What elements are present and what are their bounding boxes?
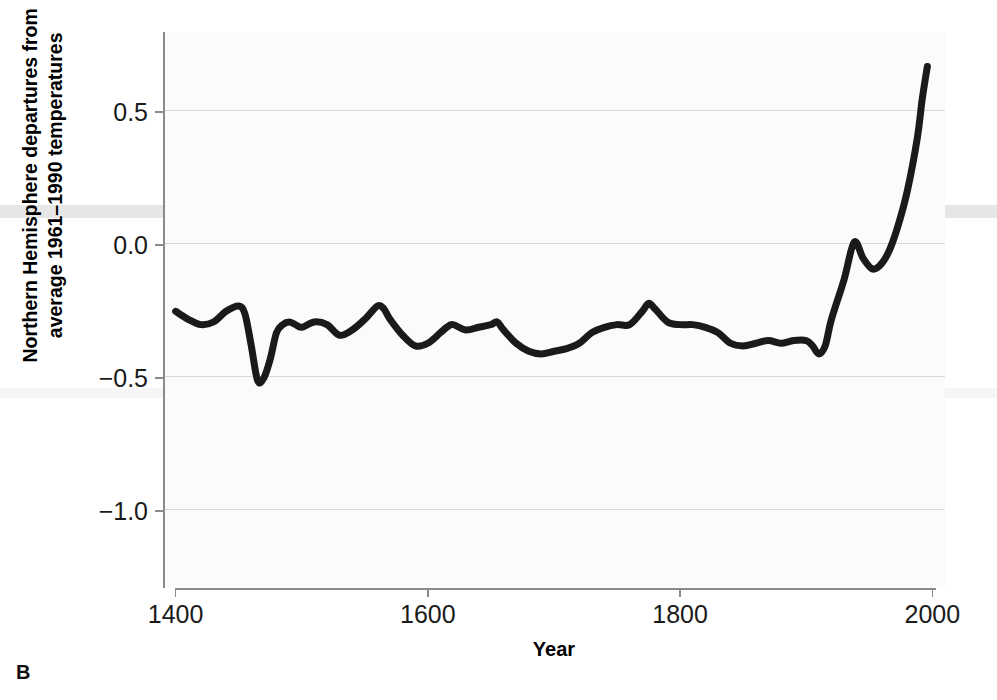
y-tick-−1.0 [155,510,164,512]
x-tick-label-1600: 1600 [400,600,456,629]
x-axis-title: Year [163,638,945,661]
x-tick-label-1800: 1800 [652,600,708,629]
y-axis-line [163,32,165,588]
y-tick-label-−1.0: −1.0 [99,496,148,525]
x-tick-label-1400: 1400 [148,600,204,629]
y-axis-title: Northern Hemisphere departures from aver… [18,0,69,395]
plot-area [163,32,945,588]
panel-label: B [16,661,30,684]
y-axis-title-line1: Northern Hemisphere departures from [18,0,43,395]
x-axis-line [176,588,936,590]
x-tick-1600 [427,588,429,597]
x-tick-2000 [932,588,934,597]
x-tick-1400 [175,588,177,597]
y-tick-label-−0.5: −0.5 [99,363,148,392]
y-axis-title-line2: average 1961–1990 temperatures [43,0,68,395]
y-tick-label-0.0: 0.0 [113,230,148,259]
y-tick-0.0 [155,244,164,246]
temperature-anomaly-series [163,32,945,588]
y-tick-−0.5 [155,377,164,379]
x-tick-1800 [679,588,681,597]
figure-panel-b: 1400160018002000 0.50.0−0.5−1.0 Northern… [0,0,997,700]
y-tick-label-0.5: 0.5 [113,97,148,126]
temperature-anomaly-line [176,67,928,383]
x-tick-label-2000: 2000 [905,600,961,629]
y-tick-0.5 [155,111,164,113]
